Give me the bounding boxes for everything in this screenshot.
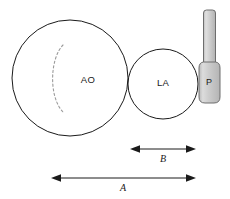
aorta-circle — [12, 20, 128, 136]
dimension-b-group — [130, 145, 196, 153]
probe-stem — [204, 10, 216, 66]
dimension-a-arrowhead-right — [186, 174, 196, 182]
dimension-a-label: A — [119, 182, 127, 193]
left-atrium-label: LA — [157, 77, 170, 88]
aorta-label: AO — [81, 74, 95, 85]
dimension-a-arrowhead-left — [51, 174, 61, 182]
schematic-drawing: AO LA P B A — [0, 0, 230, 199]
probe-label: P — [206, 77, 212, 87]
dimension-b-label: B — [160, 153, 166, 164]
probe-shape — [199, 10, 220, 103]
dimension-b-arrowhead-right — [186, 145, 196, 153]
dimension-a-group — [51, 174, 196, 182]
dimension-b-arrowhead-left — [130, 145, 140, 153]
diagram-canvas: AO LA P B A — [0, 0, 230, 199]
